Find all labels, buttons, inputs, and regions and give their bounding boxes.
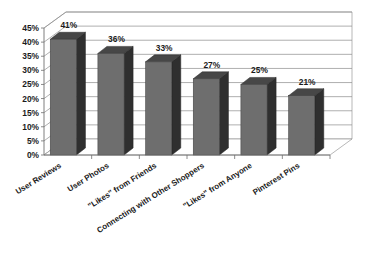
bar — [241, 77, 276, 155]
bar — [98, 46, 133, 155]
bar-value-label: 41% — [60, 20, 77, 30]
chart-container: 0%5%10%15%20%25%30%35%40%45% 41%36%33%27… — [0, 0, 365, 280]
bar — [50, 32, 85, 155]
x-axis — [44, 155, 330, 159]
y-axis: 0%5%10%15%20%25%30%35%40%45% — [22, 23, 44, 160]
bars-group — [50, 32, 324, 155]
category-labels: User ReviewsUser Photos"Likes" from Frie… — [14, 161, 302, 235]
y-axis-tick-label: 45% — [22, 23, 39, 33]
y-axis-tick-label: 30% — [22, 65, 39, 75]
y-axis-tick-label: 20% — [22, 94, 39, 104]
x-axis-category-label: Pinterest Pins — [251, 161, 301, 197]
y-axis-tick-label: 40% — [22, 37, 39, 47]
bar — [193, 72, 228, 155]
y-axis-tick-label: 10% — [22, 122, 39, 132]
y-axis-tick-label: 35% — [22, 51, 39, 61]
x-axis-category-label: User Reviews — [14, 161, 63, 196]
y-axis-tick-label: 5% — [27, 136, 40, 146]
bar — [146, 55, 181, 155]
bar-chart: 0%5%10%15%20%25%30%35%40%45% 41%36%33%27… — [0, 0, 365, 280]
bar-value-label: 27% — [203, 60, 220, 70]
bar-value-label: 25% — [251, 65, 268, 75]
y-axis-tick-label: 25% — [22, 79, 39, 89]
y-axis-tick-label: 0% — [27, 150, 40, 160]
x-axis-category-label: User Photos — [66, 161, 111, 194]
bar-value-label: 33% — [156, 43, 173, 53]
bar-value-label: 36% — [108, 34, 125, 44]
bar — [289, 89, 324, 155]
bar-value-label: 21% — [299, 77, 316, 87]
y-axis-tick-label: 15% — [22, 108, 39, 118]
